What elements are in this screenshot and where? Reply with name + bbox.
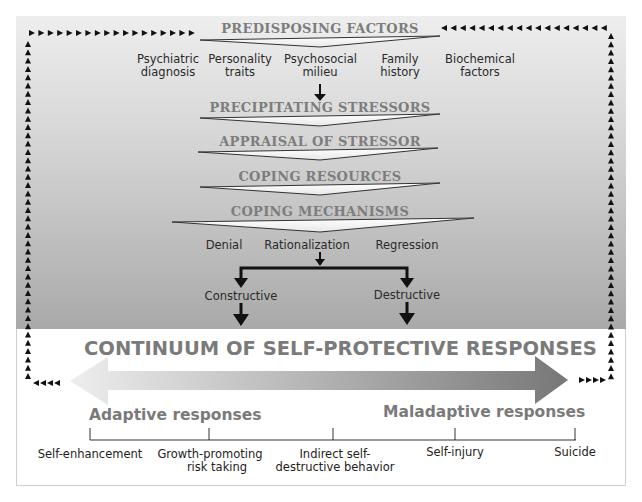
factor-biochemical-factors: Biochemical factors — [440, 53, 520, 79]
branch-connector — [241, 268, 407, 282]
triangle-arrow-icon — [170, 30, 176, 36]
branch-destructive: Destructive — [370, 289, 444, 302]
triangle-arrow-icon — [608, 324, 614, 330]
triangle-arrow-icon — [40, 380, 46, 386]
chevron-precipitating — [200, 114, 440, 126]
triangle-arrow-icon — [25, 373, 31, 379]
triangle-arrow-icon — [25, 182, 31, 188]
stage-coping-mechanisms: COPING MECHANISMS — [200, 204, 440, 219]
triangle-arrow-icon — [608, 66, 614, 72]
triangle-arrow-icon — [38, 30, 44, 36]
triangle-arrow-icon — [608, 182, 614, 188]
triangle-arrow-icon — [544, 25, 550, 31]
triangle-arrow-icon — [608, 166, 614, 172]
triangle-arrow-icon — [95, 30, 101, 36]
chevron-coping-resources — [200, 183, 440, 195]
triangle-arrow-icon — [25, 99, 31, 105]
factor-line: diagnosis — [128, 66, 208, 79]
arrow-head-icon — [400, 278, 414, 288]
triangle-arrow-icon — [608, 232, 614, 238]
triangle-arrow-icon — [591, 25, 597, 31]
triangle-arrow-icon — [25, 348, 31, 354]
triangle-arrow-icon — [25, 116, 31, 122]
response-line: Suicide — [540, 446, 610, 459]
mechanism-denial: Denial — [199, 239, 249, 252]
triangle-arrow-icon — [25, 298, 31, 304]
triangle-arrow-icon — [189, 30, 195, 36]
triangle-arrow-icon — [535, 25, 541, 31]
triangle-arrow-icon — [25, 107, 31, 113]
triangle-arrow-icon — [25, 141, 31, 147]
triangle-arrow-icon — [67, 30, 73, 36]
triangle-arrow-icon — [48, 30, 54, 36]
triangle-arrow-icon — [25, 215, 31, 221]
triangle-arrow-icon — [25, 132, 31, 138]
triangle-arrow-icon — [25, 157, 31, 163]
triangle-arrow-icon — [25, 307, 31, 313]
response-line: destructive behavior — [270, 461, 400, 474]
response-suicide: Suicide — [540, 446, 610, 459]
response-line: Self-injury — [415, 446, 495, 459]
triangle-arrow-icon — [608, 274, 614, 280]
triangle-arrow-icon — [25, 356, 31, 362]
triangle-arrow-icon — [554, 25, 560, 31]
triangle-arrow-icon — [25, 332, 31, 338]
triangle-arrow-icon — [33, 380, 39, 386]
triangle-arrow-icon — [29, 30, 35, 36]
triangle-arrow-icon — [608, 348, 614, 354]
triangle-arrow-icon — [608, 299, 614, 305]
triangle-arrow-icon — [142, 30, 148, 36]
triangle-arrow-icon — [601, 25, 607, 31]
triangle-arrow-icon — [25, 290, 31, 296]
triangle-arrow-icon — [25, 149, 31, 155]
triangle-arrow-icon — [608, 41, 614, 47]
triangle-arrow-icon — [608, 290, 614, 296]
triangle-arrow-icon — [608, 50, 614, 56]
triangle-arrow-icon — [608, 365, 614, 371]
triangle-arrow-icon — [25, 232, 31, 238]
triangle-arrow-icon — [25, 91, 31, 97]
chevron-appraisal — [198, 148, 438, 160]
triangle-arrow-icon — [179, 30, 185, 36]
triangle-arrow-icon — [608, 265, 614, 271]
triangle-arrow-icon — [608, 149, 614, 155]
triangle-arrow-icon — [608, 315, 614, 321]
triangle-arrow-icon — [608, 257, 614, 263]
triangle-arrow-icon — [104, 30, 110, 36]
chevron-coping-mechanisms — [172, 218, 474, 232]
triangle-arrow-icon — [608, 174, 614, 180]
triangle-arrow-icon — [25, 315, 31, 321]
triangle-arrow-icon — [608, 241, 614, 247]
mechanism-rationalization: Rationalization — [262, 239, 352, 252]
response-indirect-self-destructive: Indirect self- destructive behavior — [270, 448, 400, 474]
factor-line: milieu — [284, 66, 356, 79]
triangle-arrow-icon — [608, 373, 614, 379]
triangle-arrow-icon — [450, 25, 456, 31]
triangle-arrow-icon — [85, 30, 91, 36]
triangle-arrow-icon — [608, 83, 614, 89]
triangle-arrow-icon — [25, 199, 31, 205]
triangle-arrow-icon — [608, 340, 614, 346]
triangle-arrow-icon — [25, 340, 31, 346]
response-growth-promoting: Growth-promoting risk taking — [150, 448, 270, 474]
triangle-arrow-icon — [608, 33, 614, 39]
triangle-arrow-icon — [479, 25, 485, 31]
triangle-arrow-icon — [579, 377, 585, 383]
triangle-arrow-icon — [497, 25, 503, 31]
triangle-arrow-icon — [25, 83, 31, 89]
triangle-arrow-icon — [608, 99, 614, 105]
triangle-arrow-icon — [608, 249, 614, 255]
factor-family-history: Family history — [372, 53, 428, 79]
triangle-arrow-icon — [608, 357, 614, 363]
triangle-arrow-icon — [600, 377, 606, 383]
triangle-arrow-icon — [582, 25, 588, 31]
response-self-injury: Self-injury — [415, 446, 495, 459]
triangle-arrow-icon — [488, 25, 494, 31]
triangle-arrow-icon — [608, 207, 614, 213]
factor-personality-traits: Personality traits — [205, 53, 275, 79]
triangle-arrow-icon — [25, 273, 31, 279]
triangle-arrow-icon — [608, 216, 614, 222]
arrow-head-icon — [233, 314, 249, 326]
continuum-double-arrow — [70, 356, 568, 405]
triangle-arrow-icon — [25, 41, 31, 47]
